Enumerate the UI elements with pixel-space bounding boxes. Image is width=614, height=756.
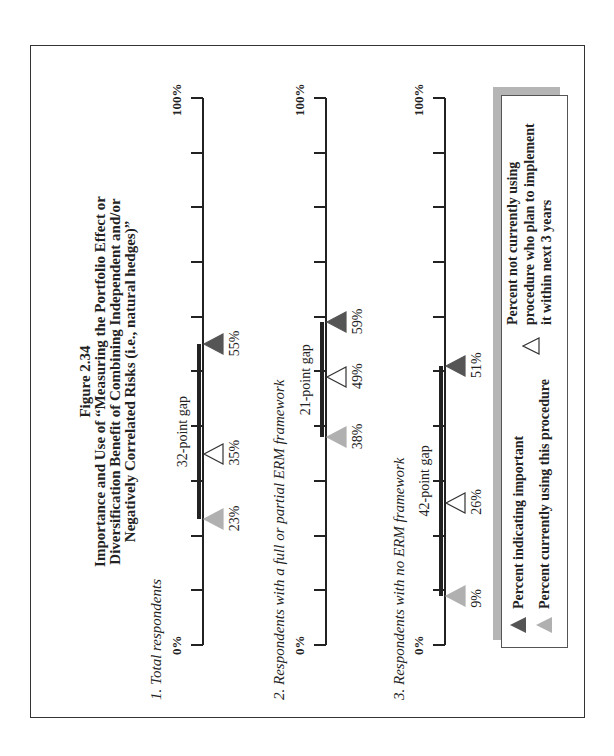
using-triangle-icon: [446, 585, 466, 607]
row-label: 3. Respondents with no ERM framework: [391, 458, 408, 700]
axis-max-label: 100%: [292, 84, 308, 117]
axis-min-label: 0%: [411, 636, 427, 656]
axis-tick: [314, 206, 326, 208]
gap-bar: [197, 344, 201, 519]
plan-triangle-icon: [522, 337, 540, 355]
axis-tick: [191, 261, 203, 263]
axis-end-tick: [314, 644, 326, 646]
gap-label: 32-point gap: [175, 382, 191, 482]
axis-tick: [433, 206, 445, 208]
figure-number: Figure 2.34: [78, 45, 93, 718]
important-value: 59%: [350, 309, 366, 335]
axis-tick: [314, 535, 326, 537]
plan-value: 26%: [469, 489, 485, 515]
axis-tick: [314, 480, 326, 482]
axis-tick: [433, 152, 445, 154]
using-triangle-icon: [536, 617, 552, 633]
axis-tick: [314, 152, 326, 154]
figure-title: Figure 2.34 Importance and Use of “Measu…: [78, 45, 138, 718]
axis-max-label: 100%: [169, 84, 185, 117]
important-triangle-icon: [510, 617, 526, 633]
important-triangle-icon: [446, 355, 466, 377]
axis-tick: [314, 589, 326, 591]
axis-min-label: 0%: [292, 636, 308, 656]
axis-tick: [191, 589, 203, 591]
axis-end-tick: [191, 644, 203, 646]
axis-tick: [191, 316, 203, 318]
important-triangle-icon: [327, 311, 347, 333]
axis-end-tick: [433, 97, 445, 99]
axis-end-tick: [314, 97, 326, 99]
using-triangle-icon: [204, 508, 224, 530]
axis-tick: [433, 316, 445, 318]
axis-max-label: 100%: [411, 84, 427, 117]
using-value: 38%: [350, 423, 366, 449]
using-value: 9%: [469, 589, 485, 608]
axis-end-tick: [433, 644, 445, 646]
axis-tick: [314, 261, 326, 263]
axis-tick: [314, 316, 326, 318]
legend-important: Percent indicating important: [510, 436, 527, 609]
title-line-3: Negatively Correlated Risks (i.e., natur…: [123, 45, 138, 718]
axis-tick: [191, 152, 203, 154]
axis-tick: [433, 261, 445, 263]
using-value: 23%: [227, 506, 243, 532]
rotated-figure: Figure 2.34 Importance and Use of “Measu…: [30, 45, 585, 718]
plan-triangle-icon: [327, 366, 347, 388]
gap-label: 42-point gap: [417, 431, 433, 531]
legend: Percent indicating important Percent cur…: [501, 95, 568, 648]
gap-bar: [439, 366, 443, 596]
legend-plan-line-1: Percent not currently using: [504, 162, 521, 325]
row-label: 2. Respondents with a full or partial ER…: [271, 380, 288, 700]
plan-triangle-icon: [446, 492, 466, 514]
plan-value: 35%: [227, 440, 243, 466]
legend-using: Percent currently using this procedure: [536, 379, 553, 609]
using-triangle-icon: [327, 426, 347, 448]
important-triangle-icon: [204, 333, 224, 355]
axis-end-tick: [191, 97, 203, 99]
title-line-1: Importance and Use of “Measuring the Por…: [93, 45, 108, 718]
axis-tick: [191, 535, 203, 537]
axis-tick: [191, 206, 203, 208]
legend-plan-line-3: it within next 3 years: [538, 200, 555, 325]
gap-bar: [320, 322, 324, 437]
title-line-2: Diversification Benefit of Combining Ind…: [108, 45, 123, 718]
legend-plan-line-2: procedure who plan to implement: [521, 123, 538, 325]
gap-label: 21-point gap: [298, 330, 314, 430]
important-value: 51%: [469, 352, 485, 378]
plan-value: 49%: [350, 363, 366, 389]
axis-min-label: 0%: [169, 636, 185, 656]
plan-triangle-icon: [204, 443, 224, 465]
row-label: 1. Total respondents: [148, 579, 165, 700]
important-value: 55%: [227, 330, 243, 356]
